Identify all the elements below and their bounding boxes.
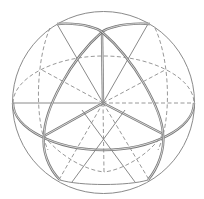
spoke-to-lower-right-vertex-inner bbox=[103, 103, 163, 134]
great-arc-left bbox=[44, 24, 150, 180]
great-arc-right-inner bbox=[57, 24, 163, 180]
great-arc-right bbox=[57, 24, 163, 180]
spoke-upper-right bbox=[103, 24, 148, 103]
sphere-diagram bbox=[0, 0, 204, 199]
great-arc-left-inner bbox=[44, 24, 150, 180]
spoke-to-lower-left-vertex-inner bbox=[44, 103, 103, 136]
vertical-axis-lower bbox=[103, 103, 104, 172]
